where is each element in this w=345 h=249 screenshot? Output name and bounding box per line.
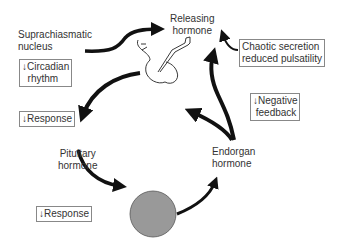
response-box-bottom: ↓Response — [36, 206, 92, 222]
circadian-rhythm-box: ↓Circadian rhythm — [19, 59, 72, 87]
arrow-gland-to-pituitary-hormone — [83, 73, 140, 115]
pituitary-hormone-label: Pituitary hormone — [58, 148, 97, 172]
chaotic-secretion-box: Chaotic secretion reduced pulsatility — [239, 39, 325, 67]
negative-feedback-box: ↓Negative feedback — [250, 93, 300, 121]
scn-label: Suprachiasmatic nucleus — [18, 29, 92, 53]
pituitary-gland-icon — [137, 37, 190, 83]
target-gland-circle — [130, 191, 176, 237]
arrow-scn-to-releasing — [85, 29, 158, 51]
arrow-gland-to-endorgan — [177, 182, 215, 214]
response-box-top: ↓Response — [19, 111, 75, 127]
endorgan-hormone-label: Endorgan hormone — [212, 146, 255, 170]
arrow-chaotic-to-releasing — [223, 35, 238, 50]
releasing-hormone-label: Releasing hormone — [170, 13, 214, 37]
